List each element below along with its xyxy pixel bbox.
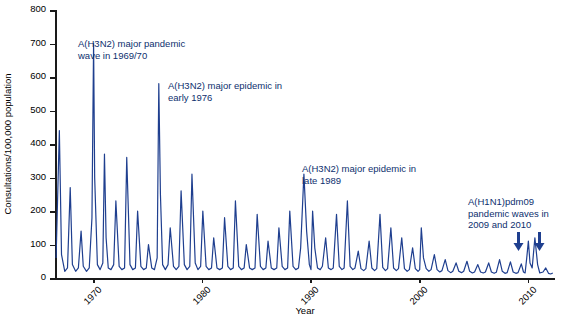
x-axis-line xyxy=(55,278,555,280)
y-tick-label-600: 600 xyxy=(30,69,46,83)
x-tick-2000 xyxy=(419,278,421,283)
y-tick-label-700: 700 xyxy=(30,36,46,50)
influenza-consultations-chart: Consultations/100,000 population Year 01… xyxy=(0,0,574,326)
annotation-1969-pandemic: A(H3N2) major pandemic wave in 1969/70 xyxy=(78,38,185,61)
y-tick-label-300: 300 xyxy=(30,170,46,184)
x-tick-1970 xyxy=(93,278,95,283)
x-tick-label-1990: 1990 xyxy=(298,284,321,307)
x-tick-label-1980: 1980 xyxy=(190,284,213,307)
y-tick-label-0: 0 xyxy=(41,270,46,284)
series-path xyxy=(56,44,553,274)
x-tick-2010 xyxy=(528,278,530,283)
annotation-1989-epidemic: A(H3N2) major epidemic in late 1989 xyxy=(302,163,416,186)
x-tick-label-2000: 2000 xyxy=(407,284,430,307)
y-tick-0: 0 xyxy=(50,278,55,280)
y-tick-label-500: 500 xyxy=(30,103,46,117)
x-tick-label-1970: 1970 xyxy=(81,284,104,307)
y-axis-title: Consultations/100,000 population xyxy=(2,10,15,278)
arrow-2010-wave xyxy=(534,232,545,252)
y-tick-label-100: 100 xyxy=(30,237,46,251)
x-tick-1980 xyxy=(202,278,204,283)
annotation-1976-epidemic: A(H3N2) major epidemic in early 1976 xyxy=(168,80,282,103)
y-tick-label-200: 200 xyxy=(30,203,46,217)
x-tick-1990 xyxy=(310,278,312,283)
x-tick-label-2010: 2010 xyxy=(516,284,539,307)
arrow-2009-wave xyxy=(513,232,524,252)
y-tick-label-800: 800 xyxy=(30,2,46,16)
annotation-2009-pandemic: A(H1N1)pdm09 pandemic waves in 2009 and … xyxy=(468,196,549,231)
y-tick-label-400: 400 xyxy=(30,136,46,150)
